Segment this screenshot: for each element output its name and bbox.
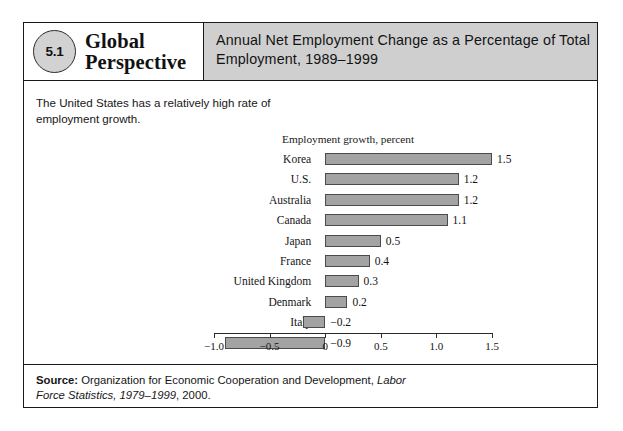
bar-value-label: 1.1: [453, 210, 467, 230]
axis-tick-label: −1.0: [204, 340, 224, 352]
employment-bar-chart: Employment growth, percent Korea1.5U.S.1…: [24, 133, 597, 348]
source-text-1: Organization for Economic Cooperation an…: [78, 374, 377, 386]
axis-line: [214, 333, 492, 334]
axis-tick: [436, 333, 437, 338]
chart-bar-row: Denmark0.2: [24, 292, 597, 312]
chart-bar: [325, 255, 369, 267]
chart-bar-row: U.S.1.2: [24, 169, 597, 189]
source-note: Source: Organization for Economic Cooper…: [36, 373, 436, 403]
bar-category-label: Japan: [151, 231, 311, 251]
figure-body: The United States has a relatively high …: [24, 81, 597, 408]
bar-value-label: 1.5: [497, 149, 511, 169]
figure-header: 5.1 Global Perspective Annual Net Employ…: [24, 23, 597, 81]
chart-bar-row: Italy−0.2: [24, 312, 597, 332]
chart-plot-area: Korea1.5U.S.1.2Australia1.2Canada1.1Japa…: [24, 149, 597, 333]
source-text-2: , 2000.: [176, 389, 211, 401]
chart-bar: [325, 153, 492, 165]
chart-bar: [303, 316, 325, 328]
bar-value-label: 0.4: [375, 251, 389, 271]
chart-bar: [325, 173, 458, 185]
bar-category-label: Italy: [151, 312, 311, 332]
axis-tick-label: 0.5: [374, 340, 388, 352]
axis-tick: [492, 333, 493, 338]
chapter-badge: 5.1: [33, 30, 76, 73]
chapter-badge-number: 5.1: [45, 44, 63, 59]
bar-value-label: −0.2: [330, 312, 351, 332]
chart-bar: [325, 275, 358, 287]
figure-frame: 5.1 Global Perspective Annual Net Employ…: [23, 22, 598, 408]
axis-tick-label: 1.5: [485, 340, 499, 352]
bar-category-label: Canada: [151, 210, 311, 230]
chart-bar-row: United Kingdom0.3: [24, 271, 597, 291]
axis-tick: [325, 333, 326, 338]
bar-category-label: United Kingdom: [151, 271, 311, 291]
bar-value-label: 0.3: [364, 271, 378, 291]
feature-title-line1: Global: [85, 31, 186, 52]
chart-bar-row: Japan0.5: [24, 231, 597, 251]
chart-bar-row: Australia1.2: [24, 190, 597, 210]
chart-bar-row: Korea1.5: [24, 149, 597, 169]
axis-tick: [214, 333, 215, 338]
axis-tick-label: 1.0: [430, 340, 444, 352]
bar-category-label: Korea: [151, 149, 311, 169]
chart-bar: [325, 194, 458, 206]
intro-text: The United States has a relatively high …: [36, 95, 336, 126]
page-title: Annual Net Employment Change as a Percen…: [216, 31, 591, 68]
bar-category-label: France: [151, 251, 311, 271]
bar-value-label: 1.2: [464, 169, 478, 189]
bar-value-label: 0.2: [352, 292, 366, 312]
feature-title-line2: Perspective: [85, 52, 186, 73]
bar-category-label: Australia: [151, 190, 311, 210]
figure-title-band: Annual Net Employment Change as a Percen…: [204, 23, 597, 80]
bar-category-label: Denmark: [151, 292, 311, 312]
chart-bar-row: Canada1.1: [24, 210, 597, 230]
chart-bar-row: France0.4: [24, 251, 597, 271]
source-label: Source:: [36, 374, 78, 386]
axis-tick-label: 0: [322, 340, 328, 352]
axis-tick: [270, 333, 271, 338]
chart-bar: [325, 296, 347, 308]
bar-value-label: 0.5: [386, 231, 400, 251]
chart-bar: [325, 235, 381, 247]
chart-caption: Employment growth, percent: [282, 133, 414, 145]
bar-category-label: U.S.: [151, 169, 311, 189]
chart-x-axis: −1.0−0.500.51.01.5: [24, 333, 597, 363]
feature-title: Global Perspective: [85, 31, 186, 73]
bar-value-label: 1.2: [464, 190, 478, 210]
source-divider: [24, 364, 597, 365]
chart-bar: [325, 214, 447, 226]
axis-tick-label: −0.5: [260, 340, 280, 352]
figure-page: 5.1 Global Perspective Annual Net Employ…: [0, 0, 623, 431]
feature-brand: 5.1 Global Perspective: [24, 23, 204, 80]
axis-tick: [381, 333, 382, 338]
